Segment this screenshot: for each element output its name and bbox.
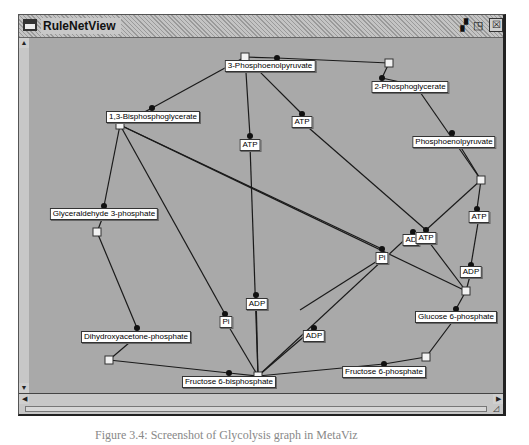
place-label[interactable]: 3-Phosphoenolpyruvate <box>225 60 316 72</box>
place-label[interactable]: ATP <box>416 232 437 244</box>
graph-edge <box>426 238 466 291</box>
place-label[interactable]: Fructose 6-phosphate <box>342 366 426 378</box>
place-label[interactable]: Phosphoenolpyruvate <box>412 136 495 148</box>
graph-edge <box>120 125 466 291</box>
place-label[interactable]: Glyceraldehyde 3-phosphate <box>50 208 158 220</box>
place-label[interactable]: Dihydroxyacetone-phosphate <box>81 331 191 343</box>
place-label[interactable]: Pi <box>375 252 388 264</box>
graph-edge <box>97 232 137 328</box>
place-label[interactable]: ADP <box>460 266 482 278</box>
transition-node[interactable] <box>462 287 470 295</box>
transition-node[interactable] <box>422 353 430 361</box>
transition-node[interactable] <box>105 356 113 364</box>
graph-edge <box>426 317 456 357</box>
graph-edge <box>104 125 120 206</box>
graph-edge <box>384 357 426 364</box>
figure-caption: Figure 3.4: Screenshot of Glycolysis gra… <box>95 428 358 443</box>
place-label[interactable]: Pi <box>219 316 232 328</box>
place-label[interactable]: Glucose 6-phosphate <box>415 311 497 323</box>
place-label[interactable]: ATP <box>292 116 313 128</box>
transition-node[interactable] <box>385 59 393 67</box>
graph-edge <box>245 57 277 58</box>
graph-edge <box>109 360 229 373</box>
place-label[interactable]: ATP <box>240 139 261 151</box>
graph-edge <box>300 258 382 310</box>
place-label[interactable]: ATP <box>469 211 490 223</box>
graph-edge <box>471 217 479 265</box>
place-label[interactable]: ADP <box>303 330 325 342</box>
place-label[interactable]: ADP <box>246 298 268 310</box>
place-label[interactable]: 1,3-Bisphosphoglycerate <box>106 111 200 123</box>
graph-edge <box>302 122 426 230</box>
graph-edge <box>226 322 258 376</box>
transition-node[interactable] <box>477 176 485 184</box>
graph-edge <box>258 232 413 376</box>
transition-node[interactable] <box>93 228 101 236</box>
place-label[interactable]: 2-Phosphoglycerate <box>371 81 448 93</box>
place-label[interactable]: Fructose 6-bisphosphate <box>182 376 276 388</box>
